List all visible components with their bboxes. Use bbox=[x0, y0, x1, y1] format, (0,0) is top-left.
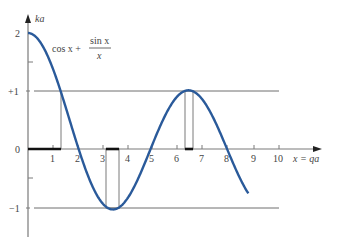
formula-annotation: cos x + sin x x bbox=[52, 35, 111, 61]
x-tick-label: 3 bbox=[100, 153, 105, 164]
x-tick-label: 4 bbox=[125, 153, 130, 164]
x-tick-label: 9 bbox=[251, 153, 256, 164]
y-tick-label-minus1: −1 bbox=[9, 203, 20, 214]
y-axis-label: ka bbox=[35, 13, 44, 24]
band-structure-chart: ka 2 +1 0 −1 1 2 3 4 5 6 7 8 9 10 x = qa… bbox=[0, 0, 339, 247]
x-tick-label: 10 bbox=[273, 153, 283, 164]
x-tick-label: 8 bbox=[224, 153, 229, 164]
x-axis-arrow-icon bbox=[313, 146, 322, 152]
x-tick-label: 1 bbox=[50, 153, 55, 164]
band-rect-2 bbox=[106, 149, 119, 208]
formula-numerator: sin x bbox=[90, 35, 109, 46]
x-tick-label: 5 bbox=[149, 153, 154, 164]
x-tick-label: 7 bbox=[199, 153, 204, 164]
formula-denominator: x bbox=[96, 50, 102, 61]
formula-cos: cos x + bbox=[52, 43, 81, 54]
band-rect-3 bbox=[185, 91, 193, 149]
x-tick-label: 6 bbox=[174, 153, 179, 164]
x-tick-label: 2 bbox=[75, 153, 80, 164]
y-tick-label-plus1: +1 bbox=[8, 86, 19, 97]
x-axis-label: x = qa bbox=[292, 153, 319, 164]
y-tick-label-2: 2 bbox=[15, 28, 20, 39]
y-tick-label-0: 0 bbox=[15, 144, 20, 155]
y-axis-arrow-icon bbox=[25, 14, 31, 23]
